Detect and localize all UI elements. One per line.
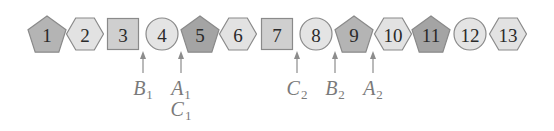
shape-item-5: 5 xyxy=(181,16,219,52)
shape-number: 5 xyxy=(195,25,205,46)
shape-number: 2 xyxy=(80,25,90,46)
shape-sequence-diagram: 12345678910111213 B1A1C1C2B2A2 xyxy=(0,0,554,131)
arrow-up-icon xyxy=(140,51,146,59)
shape-number: 12 xyxy=(461,25,480,46)
shape-item-3: 3 xyxy=(108,19,139,50)
pointer-A1-C1: A1C1 xyxy=(169,51,191,123)
arrow-up-icon xyxy=(370,51,376,59)
arrow-up-icon xyxy=(178,51,184,59)
pointer-label: B1 xyxy=(133,77,153,102)
shape-item-6: 6 xyxy=(220,18,257,50)
shape-number: 1 xyxy=(42,25,52,46)
shape-number: 8 xyxy=(311,25,321,46)
pointer-label: B2 xyxy=(325,77,345,102)
pointer-B2: B2 xyxy=(325,51,345,102)
shape-number: 6 xyxy=(233,25,243,46)
arrow-up-icon xyxy=(294,51,300,59)
shape-number: 10 xyxy=(384,25,403,46)
shape-number: 3 xyxy=(118,25,128,46)
pointer-C2: C2 xyxy=(287,51,308,102)
shape-item-7: 7 xyxy=(262,19,293,50)
shape-item-9: 9 xyxy=(335,16,373,52)
shape-row: 12345678910111213 xyxy=(28,16,527,52)
shape-number: 4 xyxy=(157,25,167,46)
shape-item-10: 10 xyxy=(375,18,412,50)
arrow-up-icon xyxy=(332,51,338,59)
pointer-label: A2 xyxy=(361,77,383,102)
shape-item-8: 8 xyxy=(300,18,332,50)
pointer-row: B1A1C1C2B2A2 xyxy=(133,51,383,123)
pointer-B1: B1 xyxy=(133,51,153,102)
shape-item-13: 13 xyxy=(490,18,527,50)
shape-number: 11 xyxy=(422,25,440,46)
shape-item-1: 1 xyxy=(28,16,66,52)
pointer-label: C2 xyxy=(287,77,308,102)
shape-item-12: 12 xyxy=(454,18,486,50)
shape-number: 9 xyxy=(349,25,359,46)
shape-item-4: 4 xyxy=(146,18,178,50)
shape-item-2: 2 xyxy=(67,18,104,50)
shape-number: 7 xyxy=(272,25,282,46)
shape-item-11: 11 xyxy=(412,16,450,52)
shape-number: 13 xyxy=(499,25,518,46)
pointer-A2: A2 xyxy=(361,51,383,102)
